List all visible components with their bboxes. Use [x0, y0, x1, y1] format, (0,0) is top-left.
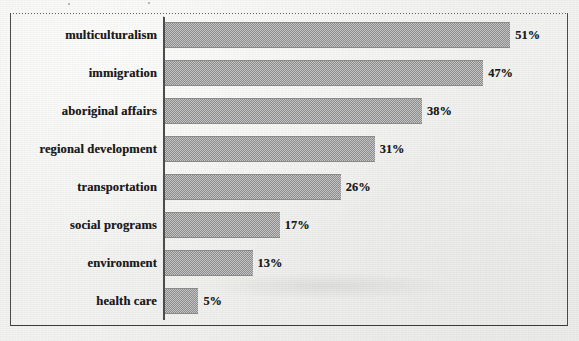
bar-value-label: 47% — [488, 66, 513, 81]
bar-track: 5% — [165, 288, 222, 314]
bar-track: 17% — [165, 212, 310, 238]
bar-fill[interactable] — [165, 174, 341, 200]
bar-value-label: 31% — [380, 142, 405, 157]
bar-value-label: 17% — [285, 218, 310, 233]
bar-fill[interactable] — [165, 22, 511, 48]
bar-fill[interactable] — [165, 136, 375, 162]
bar-track: 13% — [165, 250, 283, 276]
bar-row[interactable]: aboriginal affairs 38% — [12, 98, 566, 124]
bar-row[interactable]: health care 5% — [12, 288, 566, 314]
bar-category-label: social programs — [12, 212, 157, 238]
bar-fill[interactable] — [165, 60, 484, 86]
bar-track: 38% — [165, 98, 452, 124]
bar-fill[interactable] — [165, 98, 423, 124]
bar-category-label: environment — [12, 250, 157, 276]
bar-category-label: immigration — [12, 60, 157, 86]
bar-fill[interactable] — [165, 288, 199, 314]
scan-speck — [148, 2, 150, 4]
bar-row[interactable]: multiculturalism 51% — [12, 22, 566, 48]
bar-fill[interactable] — [165, 212, 280, 238]
bar-track: 31% — [165, 136, 405, 162]
bar-category-label: aboriginal affairs — [12, 98, 157, 124]
bar-row[interactable]: transportation 26% — [12, 174, 566, 200]
bar-fill[interactable] — [165, 250, 253, 276]
bar-track: 26% — [165, 174, 371, 200]
chart-page: multiculturalism 51% immigration 47% abo… — [0, 0, 579, 341]
bar-value-label: 51% — [515, 28, 540, 43]
bar-value-label: 5% — [203, 294, 222, 309]
bar-category-label: transportation — [12, 174, 157, 200]
scan-speck — [68, 3, 70, 5]
bar-row[interactable]: immigration 47% — [12, 60, 566, 86]
bar-row[interactable]: environment 13% — [12, 250, 566, 276]
bar-series: multiculturalism 51% immigration 47% abo… — [12, 15, 566, 324]
bar-track: 51% — [165, 22, 541, 48]
bar-value-label: 26% — [346, 180, 371, 195]
bar-value-label: 13% — [258, 256, 283, 271]
bar-row[interactable]: regional development 31% — [12, 136, 566, 162]
bar-value-label: 38% — [427, 104, 452, 119]
bar-category-label: regional development — [12, 136, 157, 162]
bar-row[interactable]: social programs 17% — [12, 212, 566, 238]
bar-category-label: health care — [12, 288, 157, 314]
bar-category-label: multiculturalism — [12, 22, 157, 48]
bar-track: 47% — [165, 60, 513, 86]
plot-area: multiculturalism 51% immigration 47% abo… — [12, 15, 566, 324]
